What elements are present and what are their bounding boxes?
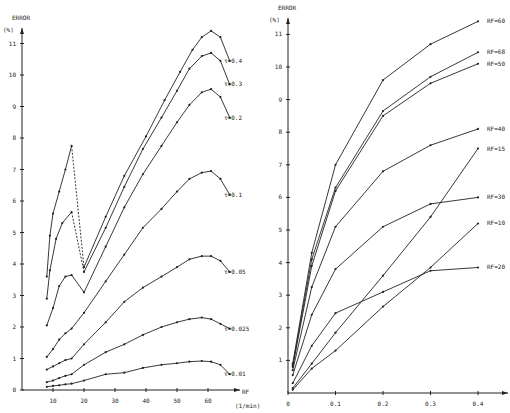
- data-point: [176, 121, 178, 123]
- data-point: [210, 361, 212, 363]
- line-segment: [202, 318, 211, 320]
- data-point: [52, 379, 54, 381]
- series-2: τ=0.2: [46, 88, 243, 326]
- line-segment: [336, 276, 384, 333]
- data-point: [46, 381, 48, 383]
- series-6: RF=10: [292, 219, 506, 390]
- series-label: τ=0.2: [224, 114, 242, 121]
- line-segment: [162, 91, 178, 118]
- data-point: [145, 135, 147, 137]
- y-tick-label: 3: [278, 291, 282, 298]
- line-segment: [431, 223, 479, 267]
- data-point: [58, 384, 60, 386]
- data-point: [429, 266, 431, 268]
- data-point: [219, 260, 221, 262]
- data-point: [334, 312, 336, 314]
- data-point: [46, 298, 48, 300]
- line-segment: [312, 269, 336, 315]
- data-point: [160, 208, 162, 210]
- data-point: [55, 238, 57, 240]
- data-point: [58, 285, 60, 287]
- data-point: [105, 351, 107, 353]
- data-point: [142, 148, 144, 150]
- line-segment: [189, 92, 201, 105]
- line-segment: [312, 333, 336, 364]
- data-point: [71, 211, 73, 213]
- y-axis-label: ERROR: [278, 4, 296, 11]
- x-axis-arrow-icon: [234, 388, 240, 392]
- line-segment: [59, 277, 65, 286]
- line-segment: [336, 292, 384, 313]
- line-segment: [59, 170, 65, 192]
- data-point: [142, 334, 144, 336]
- line-segment: [383, 77, 431, 111]
- data-point: [188, 361, 190, 363]
- data-point: [382, 226, 384, 228]
- data-point: [64, 332, 66, 334]
- data-point: [83, 312, 85, 314]
- line-segment: [143, 327, 162, 335]
- data-point: [123, 372, 125, 374]
- data-point: [123, 343, 125, 345]
- y-tick-label: 2: [12, 323, 16, 330]
- x-tick-label: 0: [286, 400, 290, 407]
- data-point: [49, 269, 51, 271]
- data-point: [61, 222, 63, 224]
- line-segment: [431, 149, 479, 217]
- line-segment: [431, 129, 479, 145]
- line-segment: [50, 239, 56, 270]
- data-point: [64, 383, 66, 385]
- line-segment: [383, 145, 431, 171]
- line-segment: [106, 344, 125, 352]
- line-segment: [47, 308, 53, 325]
- data-point: [382, 79, 384, 81]
- data-point: [105, 216, 107, 218]
- x-tick-label: 0.3: [425, 400, 436, 407]
- data-point: [477, 128, 479, 130]
- y-tick-label: 8: [12, 134, 16, 141]
- x-tick-label: 10: [49, 397, 57, 404]
- x-tick-label: 20: [80, 397, 88, 404]
- line-segment: [312, 227, 336, 287]
- y-axis-arrow-icon: [20, 28, 24, 34]
- data-point: [83, 291, 85, 293]
- data-point: [83, 271, 85, 273]
- line-segment: [383, 217, 431, 276]
- data-point: [311, 265, 313, 267]
- line-segment: [124, 149, 143, 187]
- y-tick-label: 7: [12, 166, 16, 173]
- data-point: [311, 367, 313, 369]
- line-segment: [53, 340, 59, 349]
- line-segment: [177, 362, 189, 364]
- data-point: [292, 374, 294, 376]
- line-segment: [143, 146, 162, 174]
- y-tick-label: 6: [278, 193, 282, 200]
- y-tick-label: 1: [12, 355, 16, 362]
- line-segment: [143, 365, 162, 368]
- line-segment: [165, 72, 181, 100]
- line-segment: [293, 369, 312, 390]
- data-point: [176, 362, 178, 364]
- data-point: [311, 258, 313, 260]
- data-point: [191, 49, 193, 51]
- line-segment: [189, 56, 201, 69]
- series-label: τ=0.01: [224, 370, 246, 377]
- line-segment: [177, 319, 189, 322]
- data-point: [58, 190, 60, 192]
- y-tick-label: 4: [278, 259, 282, 266]
- line-segment: [211, 256, 220, 261]
- data-point: [201, 360, 203, 362]
- data-point: [201, 91, 203, 93]
- line-segment: [189, 318, 201, 320]
- data-point: [201, 36, 203, 38]
- data-point: [188, 258, 190, 260]
- line-segment: [106, 373, 125, 375]
- y-tick-label: 11: [9, 40, 17, 47]
- line-segment: [65, 329, 71, 334]
- series-label: RF=60: [487, 17, 505, 24]
- data-point: [105, 321, 107, 323]
- line-segment: [72, 365, 84, 374]
- y-tick-label: 7: [278, 161, 282, 168]
- data-point: [201, 255, 203, 257]
- line-segment: [202, 89, 211, 92]
